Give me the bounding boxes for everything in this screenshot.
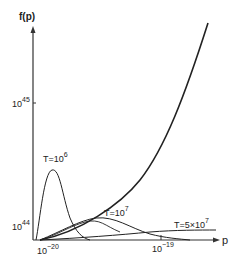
label-t-1e7: T=107 (104, 205, 129, 218)
x-axis-label: p (222, 234, 228, 246)
y-tick-label-45: 1045 (12, 96, 30, 109)
y-axis-arrow-icon (31, 26, 36, 33)
curve-t-1e7 (40, 218, 190, 240)
y-tick-label-44: 1044 (12, 219, 30, 232)
label-t-5e7: T=5×107 (174, 217, 209, 230)
x-tick-label-19: 10−19 (152, 241, 174, 254)
chart: f(p) p 1045 1044 10−20 10−19 T=106 T=107… (0, 0, 229, 275)
x-axis-arrow-icon (213, 238, 220, 243)
label-t-1e6: T=106 (43, 151, 68, 164)
y-axis-label: f(p) (19, 11, 35, 22)
x-tick-label-20: 10−20 (37, 243, 59, 256)
